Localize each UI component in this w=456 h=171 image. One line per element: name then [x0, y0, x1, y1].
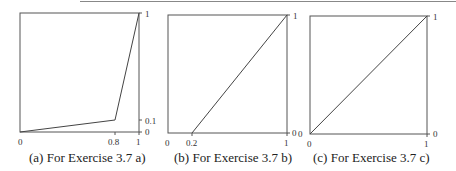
figure-panels: 0 0.8 1 1 0.1 0 (a) For Exercise 3.7 a) …	[0, 0, 456, 171]
panel-c-curve	[310, 16, 427, 134]
label-a-y01: 0.1	[145, 116, 156, 126]
label-b-x0: 0	[165, 138, 170, 148]
panel-b-curve	[192, 15, 287, 133]
label-b-x1: 1	[284, 138, 289, 148]
panel-b: 0 0.2 1 1 0 (b) For Exercise 3.7 b)	[165, 11, 298, 165]
caption-b: (b) For Exercise 3.7 b)	[174, 150, 292, 165]
label-c-y1: 1	[433, 12, 438, 22]
panel-a-frame	[20, 13, 139, 132]
panel-a-curve	[20, 13, 139, 132]
label-a-x08: 0.8	[108, 137, 120, 147]
panel-a: 0 0.8 1 1 0.1 0 (a) For Exercise 3.7 a)	[18, 9, 156, 165]
label-c-x0: 0	[307, 139, 312, 149]
label-a-x1: 1	[136, 137, 141, 147]
label-a-y0: 0	[145, 127, 150, 137]
label-c-y0-left: 0	[298, 129, 303, 139]
label-c-x1: 1	[424, 139, 429, 149]
caption-c: (c) For Exercise 3.7 c)	[313, 150, 430, 165]
label-b-y0: 0	[292, 128, 297, 138]
panel-b-frame	[168, 15, 287, 133]
panel-c: 0 0 1 1 0 (c) For Exercise 3.7 c)	[298, 12, 438, 165]
label-b-y1: 1	[293, 11, 298, 21]
label-a-y1: 1	[145, 9, 150, 19]
label-a-x0: 0	[18, 137, 23, 147]
label-b-x02: 0.2	[186, 138, 197, 148]
label-c-y0: 0	[433, 129, 438, 139]
caption-a: (a) For Exercise 3.7 a)	[29, 150, 146, 165]
